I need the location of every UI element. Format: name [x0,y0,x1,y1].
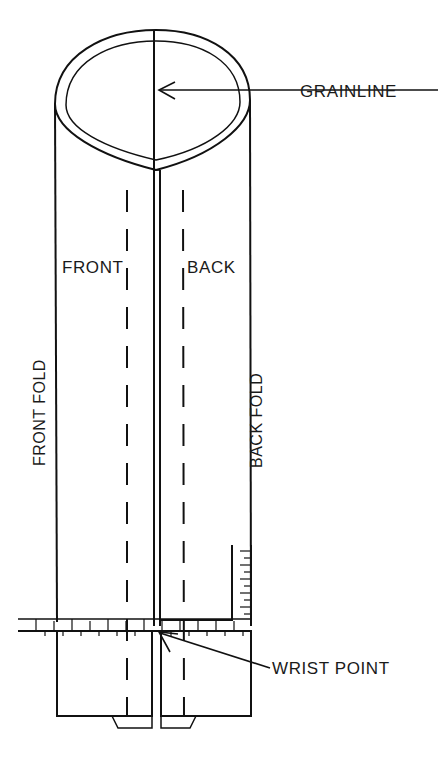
pattern-drawing-canvas: GRAINLINE FRONT BACK FRONT FOLD BACK FOL… [0,0,438,762]
back-fold-label: BACK FOLD [248,373,265,468]
wrist-point-label: WRIST POINT [272,659,390,678]
sleeve-pattern-diagram: GRAINLINE FRONT BACK FRONT FOLD BACK FOL… [0,0,438,762]
front-label: FRONT [62,258,124,277]
back-label: BACK [187,258,236,277]
canvas-background [0,0,438,762]
grainline-label: GRAINLINE [300,82,397,101]
front-fold-label: FRONT FOLD [31,359,48,466]
